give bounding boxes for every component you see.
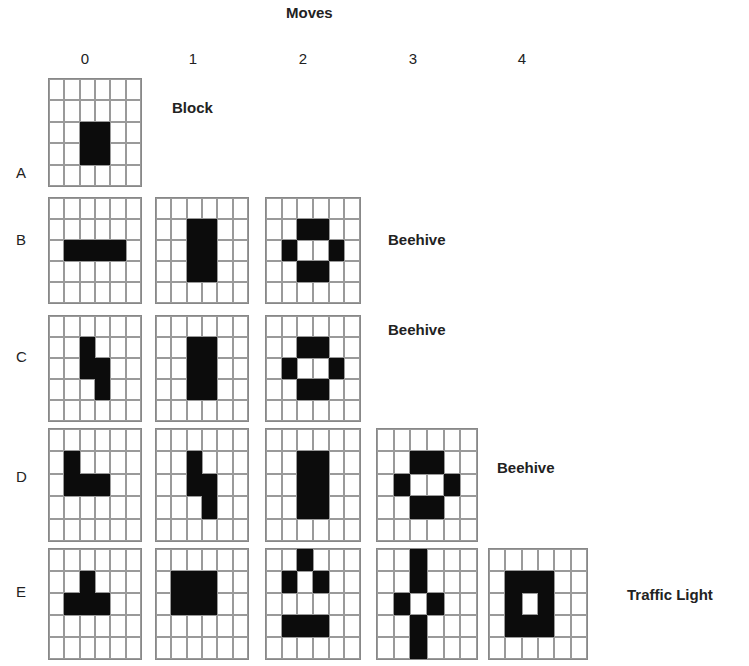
live-cell (410, 496, 427, 518)
live-cell (64, 474, 79, 496)
live-cell (313, 451, 329, 473)
dead-cell (49, 100, 64, 121)
row-label: A (16, 164, 26, 181)
dead-cell (460, 637, 477, 659)
live-cell (64, 593, 79, 615)
dead-cell (64, 496, 79, 518)
live-cell (444, 474, 461, 496)
dead-cell (171, 358, 186, 379)
row-label: E (16, 583, 26, 600)
life-grid-E1 (155, 548, 249, 660)
dead-cell (329, 496, 345, 518)
dead-cell (156, 571, 171, 593)
dead-cell (156, 496, 171, 518)
dead-cell (110, 198, 125, 219)
dead-cell (110, 219, 125, 240)
dead-cell (202, 615, 217, 637)
row-label: B (16, 231, 26, 248)
live-cell (80, 474, 95, 496)
dead-cell (49, 122, 64, 143)
dead-cell (266, 198, 282, 219)
dead-cell (217, 358, 232, 379)
live-cell (80, 337, 95, 358)
dead-cell (171, 261, 186, 282)
dead-cell (95, 549, 110, 571)
dead-cell (233, 198, 248, 219)
dead-cell (266, 474, 282, 496)
live-cell (187, 219, 202, 240)
dead-cell (202, 400, 217, 421)
dead-cell (217, 549, 232, 571)
dead-cell (427, 637, 444, 659)
live-cell (95, 474, 110, 496)
dead-cell (460, 571, 477, 593)
dead-cell (344, 282, 360, 303)
dead-cell (64, 122, 79, 143)
dead-cell (344, 549, 360, 571)
moves-title: Moves (286, 4, 333, 21)
dead-cell (410, 429, 427, 451)
dead-cell (410, 519, 427, 541)
dead-cell (460, 549, 477, 571)
dead-cell (313, 316, 329, 337)
dead-cell (110, 122, 125, 143)
life-grid-B1 (155, 197, 249, 304)
dead-cell (344, 219, 360, 240)
dead-cell (64, 100, 79, 121)
live-cell (95, 240, 110, 261)
dead-cell (329, 474, 345, 496)
dead-cell (344, 358, 360, 379)
dead-cell (489, 571, 505, 593)
dead-cell (126, 474, 141, 496)
dead-cell (156, 593, 171, 615)
dead-cell (282, 282, 298, 303)
dead-cell (156, 400, 171, 421)
dead-cell (49, 219, 64, 240)
dead-cell (156, 261, 171, 282)
dead-cell (80, 549, 95, 571)
dead-cell (571, 615, 587, 637)
dead-cell (313, 358, 329, 379)
live-cell (505, 615, 521, 637)
dead-cell (49, 282, 64, 303)
dead-cell (329, 429, 345, 451)
dead-cell (329, 571, 345, 593)
dead-cell (95, 637, 110, 659)
dead-cell (49, 429, 64, 451)
live-cell (329, 358, 345, 379)
dead-cell (217, 400, 232, 421)
live-cell (80, 240, 95, 261)
dead-cell (49, 549, 64, 571)
dead-cell (377, 637, 394, 659)
dead-cell (427, 474, 444, 496)
dead-cell (344, 198, 360, 219)
live-cell (95, 593, 110, 615)
dead-cell (282, 400, 298, 421)
dead-cell (156, 519, 171, 541)
dead-cell (126, 637, 141, 659)
dead-cell (80, 282, 95, 303)
live-cell (64, 240, 79, 261)
live-cell (394, 474, 411, 496)
dead-cell (266, 379, 282, 400)
live-cell (202, 474, 217, 496)
dead-cell (266, 451, 282, 473)
dead-cell (110, 474, 125, 496)
live-cell (202, 571, 217, 593)
dead-cell (344, 429, 360, 451)
live-cell (282, 615, 298, 637)
dead-cell (202, 549, 217, 571)
dead-cell (64, 400, 79, 421)
dead-cell (171, 240, 186, 261)
dead-cell (156, 240, 171, 261)
dead-cell (49, 519, 64, 541)
live-cell (313, 571, 329, 593)
live-cell (171, 571, 186, 593)
dead-cell (187, 282, 202, 303)
dead-cell (217, 615, 232, 637)
dead-cell (95, 219, 110, 240)
dead-cell (171, 379, 186, 400)
dead-cell (460, 519, 477, 541)
dead-cell (344, 496, 360, 518)
dead-cell (110, 143, 125, 164)
